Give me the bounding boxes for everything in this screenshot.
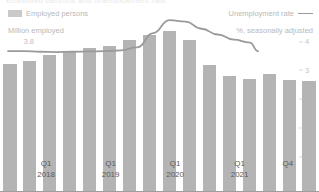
x-axis-baseline [0,191,319,192]
x-tick-quarter: Q1 [37,158,55,169]
x-tick-year: 2018 [37,169,55,180]
x-tick-quarter: Q4 [283,158,294,169]
unemployment-rate-line [0,0,258,115]
x-tick-label: Q12018 [37,158,55,180]
x-tick-quarter: Q1 [102,158,120,169]
x-tick-year: 2020 [166,169,184,180]
x-tick-label: Q4 [283,158,294,169]
x-tick-year: 2019 [102,169,120,180]
employment-chart: Employed persons and unemployment rate E… [0,0,319,192]
unemployment-rate-path [8,20,258,52]
bar-slot [299,0,319,191]
x-axis-labels: Q12018Q12019Q12020Q12021Q4 [38,158,296,188]
x-tick-label: Q12020 [166,158,184,180]
x-tick-quarter: Q1 [231,158,249,169]
x-tick-label: Q12021 [231,158,249,180]
x-tick-label: Q12019 [102,158,120,180]
x-tick-quarter: Q1 [166,158,184,169]
bar [302,81,315,191]
x-tick-year: 2021 [231,169,249,180]
